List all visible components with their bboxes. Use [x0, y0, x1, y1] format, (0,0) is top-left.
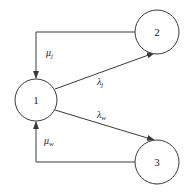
edge-1-to-2: [55, 53, 154, 89]
node-3: 3: [135, 140, 179, 184]
node-1: 1: [15, 79, 57, 121]
node-2: 2: [135, 10, 179, 54]
state-transition-diagram: 1 2 3 μj λj λw μw: [0, 0, 190, 195]
edge-label-lambda-w: λw: [96, 109, 106, 122]
node-1-label: 1: [33, 94, 39, 106]
edge-label-mu-w: μw: [43, 135, 54, 148]
node-2-label: 2: [154, 26, 160, 38]
edge-label-mu-j: μj: [45, 47, 53, 60]
node-3-label: 3: [154, 156, 160, 168]
edge-label-lambda-j: λj: [96, 76, 103, 89]
